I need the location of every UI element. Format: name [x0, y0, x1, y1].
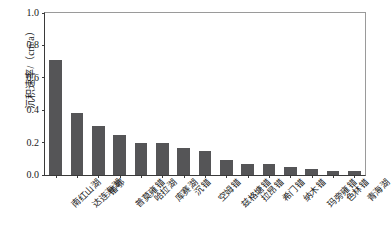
y-axis-tick-label: 0.6 — [27, 73, 43, 83]
bar — [156, 143, 169, 175]
bar — [241, 164, 254, 175]
y-axis-tick: 1.0 — [27, 8, 46, 18]
bar — [49, 60, 62, 175]
y-axis-tick-label: 0.2 — [27, 138, 43, 148]
bar — [199, 151, 212, 175]
bar — [220, 160, 233, 175]
bar — [263, 164, 276, 175]
bar — [113, 135, 126, 176]
x-axis-tick-label: 错鄂 — [108, 178, 127, 197]
bar — [135, 143, 148, 175]
x-axis-tick-label: 纳木错 — [302, 178, 328, 204]
y-axis-tick: 0.0 — [27, 170, 46, 180]
x-axis-tick-label: 希门错 — [281, 178, 307, 204]
x-axis-labels: 南红山湖达连海湖错鄂普莫雍错哈拉湖库赛湖沉错空姆错兹格塘错拉昂错希门错纳木错玛旁… — [44, 178, 366, 238]
y-axis-tick: 0.8 — [27, 40, 46, 50]
x-axis-tick-label: 青海湖 — [366, 178, 392, 204]
x-axis-tick-label: 空姆错 — [217, 178, 243, 204]
bar — [284, 167, 297, 175]
y-axis-tick: 0.4 — [27, 105, 46, 115]
y-axis-tick-label: 0.4 — [27, 105, 43, 115]
y-axis-tick: 0.2 — [27, 138, 46, 148]
y-axis-tick-label: 1.0 — [27, 8, 43, 18]
bar — [92, 126, 105, 175]
y-axis-tick-label: 0.0 — [27, 170, 43, 180]
bar — [71, 113, 84, 175]
plot-area: 0.00.20.40.60.81.0 — [44, 12, 366, 176]
y-axis-tick: 0.6 — [27, 73, 46, 83]
y-axis-tick-label: 0.8 — [27, 40, 43, 50]
bar — [177, 148, 190, 175]
bars-layer — [45, 13, 365, 175]
